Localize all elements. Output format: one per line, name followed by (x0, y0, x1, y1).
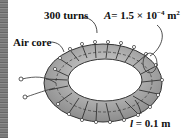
label-air-core: Air core (13, 36, 51, 48)
label-turns: 300 turns (44, 9, 88, 21)
label-length: l = 0.1 m (130, 117, 171, 129)
terminal-bottom (23, 95, 27, 99)
torus-body (44, 44, 162, 122)
terminal-top (19, 77, 23, 81)
label-area: A= 1.5 × 10−4 m2 (104, 9, 180, 21)
